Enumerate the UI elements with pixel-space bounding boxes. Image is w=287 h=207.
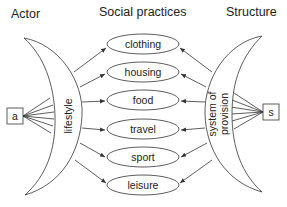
practice-label: food: [133, 94, 154, 106]
structure-box: s: [263, 104, 279, 120]
practice-label: clothing: [125, 38, 161, 50]
practice-sport: sport: [107, 147, 179, 167]
system-of-provision-label-line2: provision: [218, 93, 230, 135]
header-actor: Actor: [11, 7, 40, 21]
practice-clothing: clothing: [107, 34, 179, 54]
practice-label: sport: [131, 151, 154, 163]
practice-label: leisure: [128, 179, 159, 191]
structure-box-label: s: [268, 106, 273, 118]
practice-label: travel: [130, 123, 156, 135]
practice-travel: travel: [107, 119, 179, 139]
header-social-practices: Social practices: [99, 5, 187, 19]
structure-fan-lines: [231, 93, 263, 129]
system-of-provision-label-line1: system of: [206, 91, 218, 136]
practice-label: housing: [125, 66, 162, 78]
practice-leisure: leisure: [107, 175, 179, 195]
header-structure: Structure: [226, 5, 277, 19]
diagram-canvas: Actor Social practices Structure lifesty…: [0, 0, 287, 207]
practice-food: food: [107, 90, 179, 110]
actor-box-label: a: [12, 110, 18, 122]
practice-housing: housing: [107, 62, 179, 82]
actor-box: a: [7, 108, 23, 124]
actor-fan-lines: [23, 98, 54, 133]
lifestyle-label: lifestyle: [62, 98, 74, 133]
